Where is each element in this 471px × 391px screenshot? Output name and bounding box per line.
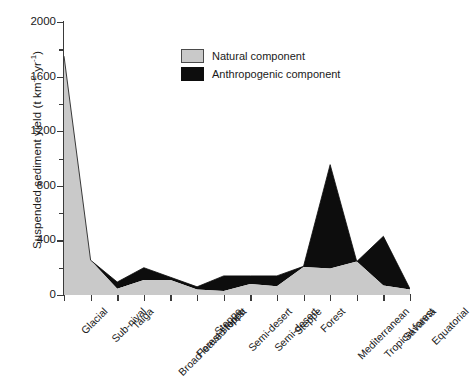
x-axis-category-label: Glacial — [78, 305, 109, 336]
legend-label-natural: Natural component — [212, 50, 305, 62]
chart-legend: Natural component Anthropogenic componen… — [181, 48, 340, 84]
x-axis-category-label: Forest — [317, 305, 347, 335]
legend-label-anthropogenic: Anthropogenic component — [212, 68, 340, 80]
legend-swatch-anthropogenic-icon — [181, 67, 204, 81]
legend-item-anthropogenic: Anthropogenic component — [181, 66, 340, 81]
legend-swatch-natural-icon — [181, 49, 204, 63]
x-axis-category-label: Taiga — [130, 305, 156, 331]
legend-item-natural: Natural component — [181, 48, 340, 63]
